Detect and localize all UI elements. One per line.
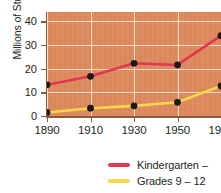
line-chart: Millions of Students 010203040 189019101… — [0, 0, 221, 193]
data-point-marker — [174, 62, 181, 69]
legend-item-kindergarten: Kindergarten – — [108, 157, 221, 173]
x-tick-mark — [178, 117, 179, 122]
data-point-marker — [87, 105, 94, 112]
data-point-marker — [131, 60, 138, 67]
data-point-marker — [131, 102, 138, 109]
data-point-marker — [47, 81, 50, 88]
legend-swatch-grades-9-12 — [108, 179, 130, 182]
y-tick-label: 20 — [13, 63, 37, 75]
chart-legend: Kindergarten – Grades 9 – 12 — [108, 157, 221, 189]
data-point-marker — [47, 109, 50, 116]
plot-area — [47, 12, 221, 116]
series-layer — [47, 12, 221, 116]
legend-item-grades-9-12: Grades 9 – 12 — [108, 173, 221, 189]
data-point-marker — [87, 73, 94, 80]
y-tick-mark — [41, 69, 47, 70]
y-axis-title: Millions of Students — [11, 0, 25, 73]
y-axis-line — [46, 12, 47, 117]
y-tick-label: 10 — [13, 86, 37, 98]
legend-label-grades-9-12: Grades 9 – 12 — [137, 175, 205, 187]
y-tick-label: 30 — [13, 39, 37, 51]
x-tick-label: 1970 — [199, 124, 221, 136]
x-tick-label: 1930 — [112, 124, 156, 136]
y-tick-mark — [41, 45, 47, 46]
y-tick-mark — [41, 92, 47, 93]
x-tick-mark — [47, 117, 48, 122]
x-tick-label: 1890 — [25, 124, 69, 136]
x-tick-mark — [91, 117, 92, 122]
data-point-marker — [174, 99, 181, 106]
x-tick-label: 1950 — [156, 124, 200, 136]
x-tick-label: 1910 — [69, 124, 113, 136]
y-tick-label: 40 — [13, 15, 37, 27]
y-tick-label: 0 — [13, 110, 37, 122]
legend-swatch-kindergarten — [108, 163, 130, 166]
legend-label-kindergarten: Kindergarten – — [137, 159, 208, 171]
x-tick-mark — [134, 117, 135, 122]
y-tick-mark — [41, 21, 47, 22]
